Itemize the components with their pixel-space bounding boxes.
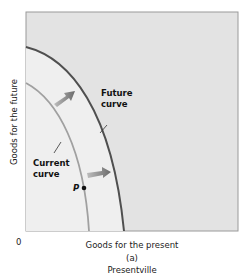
point-p-marker [82,186,87,191]
panel-label: (a) [126,253,138,263]
ppf-diagram: Future curve Current curve P 0 Goods for… [0,0,249,278]
future-curve-label-line2: curve [101,99,128,109]
current-curve-label-line1: Current [33,158,70,168]
current-curve-label-line2: curve [33,169,60,179]
caption: Presentville [107,265,156,275]
origin-label: 0 [16,237,21,247]
future-curve-label-line1: Future [101,88,133,98]
x-axis-label: Goods for the present [86,240,180,250]
point-p-label: P [73,183,80,193]
y-axis-label: Goods for the future [9,79,19,165]
